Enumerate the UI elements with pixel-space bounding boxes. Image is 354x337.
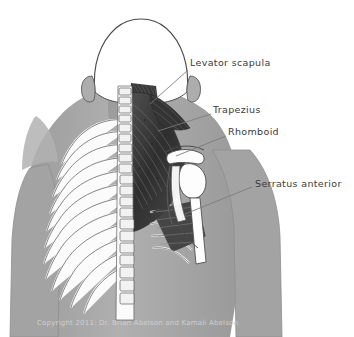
label-trapezius: Trapezius bbox=[213, 105, 261, 115]
anatomy-illustration bbox=[0, 0, 354, 337]
label-serratus-anterior: Serratus anterior bbox=[255, 179, 342, 189]
ear-right bbox=[187, 76, 201, 102]
vertebral-column bbox=[116, 86, 134, 320]
anatomy-figure: Levator scapula Trapezius Rhomboid Serra… bbox=[0, 0, 354, 337]
label-levator-scapula: Levator scapula bbox=[190, 58, 271, 68]
copyright-notice: Copyright 2011: Dr. Brian Abelson and Ka… bbox=[37, 320, 238, 327]
label-rhomboid: Rhomboid bbox=[228, 127, 279, 137]
ear-left bbox=[81, 76, 95, 102]
